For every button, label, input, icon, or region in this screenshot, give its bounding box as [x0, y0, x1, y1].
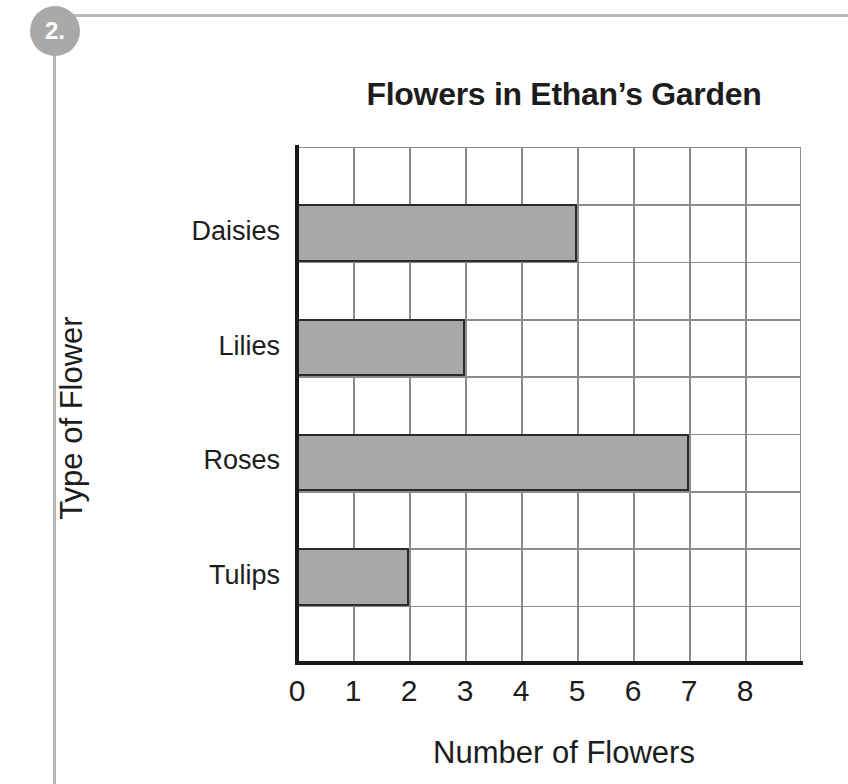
- worksheet-rule-horizontal: [55, 14, 848, 17]
- bar-tulips: [297, 548, 409, 605]
- category-label-daisies: Daisies: [191, 216, 280, 247]
- x-tick-0: 0: [277, 674, 317, 708]
- gridline-vertical: [577, 147, 579, 663]
- x-axis-line: [295, 661, 803, 665]
- x-tick-5: 5: [557, 674, 597, 708]
- category-label-lilies: Lilies: [218, 331, 280, 362]
- x-tick-8: 8: [725, 674, 765, 708]
- y-axis-title: Type of Flower: [54, 218, 90, 618]
- y-axis-line: [295, 145, 299, 665]
- x-tick-7: 7: [669, 674, 709, 708]
- worksheet-rule-vertical: [53, 14, 56, 784]
- x-tick-2: 2: [389, 674, 429, 708]
- bar-chart: Flowers in Ethan’s Garden DaisiesLiliesR…: [0, 0, 848, 784]
- bar-lilies: [297, 319, 465, 376]
- x-tick-1: 1: [333, 674, 373, 708]
- gridline-horizontal: [297, 491, 801, 493]
- gridline-vertical: [689, 147, 691, 663]
- x-tick-3: 3: [445, 674, 485, 708]
- x-tick-6: 6: [613, 674, 653, 708]
- gridline-horizontal: [297, 606, 801, 608]
- category-label-roses: Roses: [203, 445, 280, 476]
- gridline-horizontal: [297, 376, 801, 378]
- x-axis-tick-labels: 012345678: [297, 674, 807, 714]
- category-label-tulips: Tulips: [209, 560, 280, 591]
- category-axis-labels: DaisiesLiliesRosesTulips: [120, 147, 280, 663]
- bar-roses: [297, 434, 689, 491]
- x-axis-title: Number of Flowers: [290, 735, 838, 771]
- question-number-badge: 2.: [30, 6, 80, 56]
- plot-area: [297, 147, 801, 663]
- gridline-vertical: [633, 147, 635, 663]
- x-tick-4: 4: [501, 674, 541, 708]
- gridline-vertical: [745, 147, 747, 663]
- bar-daisies: [297, 204, 577, 261]
- gridline-horizontal: [297, 262, 801, 264]
- chart-title: Flowers in Ethan’s Garden: [290, 76, 838, 113]
